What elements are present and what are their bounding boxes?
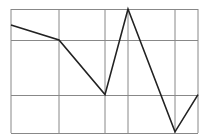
line-chart	[0, 0, 206, 139]
chart-grid	[11, 9, 198, 134]
